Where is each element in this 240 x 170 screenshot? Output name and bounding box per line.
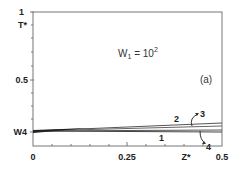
curve-label-3: 3 [200, 109, 205, 119]
arrow-4-icon [200, 131, 205, 143]
curves [33, 123, 222, 133]
parameter-annotation: W1 = 102 [118, 46, 158, 60]
x-tick-label-0: 0 [30, 152, 35, 162]
x-tick-label-0.5: 0.5 [216, 152, 229, 162]
curve-1 [33, 131, 222, 132]
curve-label-1: 1 [159, 133, 164, 143]
x-axis [52, 142, 203, 146]
curve-label-2: 2 [174, 114, 179, 124]
x-tick-label-0.25: 0.25 [118, 152, 136, 162]
chart: 1 T* 0.5 W4 0 0.25 Z* 0.5 2 1 3 4 W1 = 1… [0, 0, 240, 170]
curve-label-4: 4 [206, 142, 211, 152]
y-tick-label-w4: W4 [14, 127, 28, 137]
panel-label: (a) [200, 74, 212, 85]
y-tick-label-1: 1 [19, 7, 24, 17]
y-axis-label: T* [18, 20, 27, 30]
plot-frame [33, 12, 222, 146]
x-axis-label: Z* [182, 152, 191, 162]
y-tick-label-0.5: 0.5 [15, 75, 28, 85]
